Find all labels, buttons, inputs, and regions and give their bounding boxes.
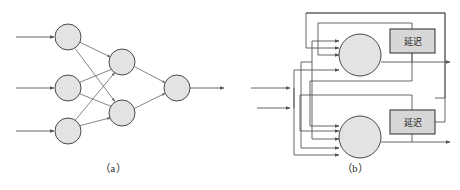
neuron-in-3	[55, 118, 81, 144]
syn-in1-hid1	[80, 42, 111, 57]
panel-a-input-arrows	[16, 37, 54, 131]
panel-a-caption: （a）	[100, 163, 126, 174]
syn-in1-hid2	[75, 49, 115, 102]
neuron-recurrent-top	[339, 34, 381, 76]
syn-in3-hid2	[80, 118, 111, 126]
syn-in2-hid1	[80, 68, 115, 82]
neuron-out-1	[164, 75, 190, 101]
rail-inner-to-bottom-neuron	[312, 62, 339, 139]
network-diagram-figure: （a）	[0, 0, 460, 190]
rail-inner-to-top-neuron	[312, 41, 339, 62]
panel-b-recurrent-network: 延迟 延迟 （b）	[251, 13, 450, 174]
panel-a-output-layer	[164, 75, 190, 101]
delay-block-bottom-label: 延迟	[404, 117, 422, 128]
delay-block-top-label: 延迟	[404, 36, 422, 47]
rail-join-left	[301, 62, 312, 70]
panel-b-caption: （b）	[342, 163, 368, 174]
panel-a-hidden-layer	[109, 49, 135, 126]
rail-outer-to-bottom-neuron	[301, 70, 339, 148]
panel-b-top-stage: 延迟	[339, 29, 450, 76]
syn-hid2-out1	[135, 93, 166, 108]
neuron-hid-2	[109, 100, 135, 126]
neuron-hid-1	[109, 49, 135, 75]
panel-b-external-inputs	[251, 88, 290, 108]
neuron-in-1	[55, 24, 81, 50]
neuron-in-2	[55, 75, 81, 101]
syn-hid1-out1	[135, 67, 166, 83]
syn-in2-hid2	[80, 94, 115, 108]
panel-a-synapses-hidden-output	[135, 67, 166, 109]
figure-root: （a）	[0, 0, 460, 190]
neuron-recurrent-bottom	[339, 116, 381, 158]
panel-a-input-layer	[55, 24, 81, 144]
panel-a-feedforward-network: （a）	[16, 24, 224, 174]
